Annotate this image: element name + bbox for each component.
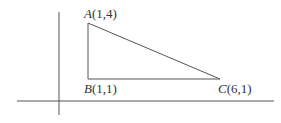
- vertex-label-b: B(1,1): [84, 82, 117, 95]
- vertex-c-coords: (6,1): [227, 81, 252, 96]
- vertex-b-name: B: [84, 81, 92, 96]
- triangle-diagram: A(1,4) B(1,1) C(6,1): [0, 0, 281, 123]
- vertex-b-coords: (1,1): [92, 81, 117, 96]
- side-ac: [88, 23, 220, 79]
- vertex-a-coords: (1,4): [92, 6, 117, 21]
- vertex-label-a: A(1,4): [84, 7, 117, 20]
- vertex-a-name: A: [84, 6, 92, 21]
- vertex-c-name: C: [218, 81, 227, 96]
- vertex-label-c: C(6,1): [218, 82, 252, 95]
- diagram-svg: [0, 0, 281, 123]
